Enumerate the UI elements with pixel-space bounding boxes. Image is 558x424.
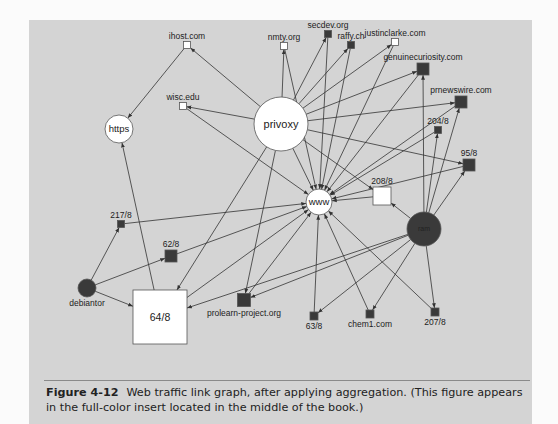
node-square	[325, 31, 332, 38]
node-square	[310, 312, 318, 320]
node-label: justinclarke.com	[364, 28, 426, 38]
node-square	[435, 127, 442, 134]
node-label: 63/8	[306, 321, 323, 331]
node-label: https	[109, 123, 130, 134]
node-n64: 64/8	[133, 290, 187, 344]
node-justinclarke: justinclarke.com	[364, 28, 426, 46]
node-label: 217/8	[110, 210, 132, 220]
edge-n217-to-www	[125, 203, 307, 223]
node-label: debiantor	[69, 298, 105, 308]
edge-n64-to-www	[187, 210, 308, 298]
edge-ram-to-n207	[426, 246, 434, 308]
edge-ram-to-prolearn	[251, 235, 409, 297]
edge-privoxy-to-prolearn	[245, 150, 275, 293]
node-label: raffy.ch	[337, 31, 364, 41]
caption-separator	[44, 380, 530, 381]
node-https: https	[105, 115, 133, 143]
edge-privoxy-to-genuinecuriosity	[306, 71, 417, 114]
node-genuinecuriosity: genuinecuriosity.com	[383, 52, 462, 75]
node-label: prnewswire.com	[430, 85, 491, 95]
node-label: prolearn-project.org	[207, 308, 281, 318]
node-square	[392, 39, 399, 46]
edge-privoxy-to-www	[293, 148, 313, 190]
node-n207: 207/8	[424, 308, 446, 327]
edge-ram-to-genuinecuriosity	[423, 75, 424, 212]
edge-debiantor-to-n217	[91, 228, 119, 281]
node-raffy: raffy.ch	[337, 31, 364, 49]
node-n63: 63/8	[306, 312, 323, 331]
node-label: genuinecuriosity.com	[383, 52, 462, 62]
node-square	[455, 96, 467, 108]
node-nmty: nmty.org	[268, 32, 301, 50]
edge-debiantor-to-n62	[95, 258, 165, 285]
edge-n63-to-www	[314, 215, 318, 312]
edge-ram-to-n95	[434, 171, 465, 215]
node-label: 95/8	[461, 148, 478, 158]
node-label: 208/8	[371, 176, 393, 186]
node-circle	[78, 279, 96, 297]
edge-ram-to-n64	[187, 234, 408, 308]
node-label: secdev.org	[308, 20, 349, 30]
node-n204: 204/8	[427, 116, 449, 134]
node-square	[281, 43, 288, 50]
node-n62: 62/8	[163, 239, 180, 262]
node-n217: 217/8	[110, 210, 132, 228]
node-label: privoxy	[264, 118, 299, 130]
node-label: 204/8	[427, 116, 449, 126]
node-label: www	[308, 196, 330, 207]
node-square	[431, 308, 439, 316]
node-label: 64/8	[150, 311, 171, 323]
figure-number: Figure 4-12	[46, 386, 118, 399]
edge-justinclarke-to-www	[325, 46, 394, 191]
link-graph: privoxyhttpswwwramdebiantorihost.comwisc…	[0, 0, 558, 424]
node-label: 62/8	[163, 239, 180, 249]
edge-privoxy-to-ihost	[191, 48, 261, 107]
edge-privoxy-to-wisc	[187, 107, 255, 119]
node-ram: ram	[407, 212, 441, 246]
node-square	[118, 221, 125, 228]
edge-n62-to-www	[177, 206, 307, 253]
edge-privoxy-to-n64	[177, 147, 267, 290]
edge-privoxy-to-secdev	[293, 38, 326, 101]
node-label: ihost.com	[169, 31, 205, 41]
edge-ihost-to-https	[128, 49, 184, 119]
node-label: ram	[418, 225, 430, 232]
edge-privoxy-to-nmty	[282, 50, 284, 98]
node-n208: 208/8	[371, 176, 393, 205]
node-square	[184, 42, 191, 49]
node-chem1: chem1.com	[348, 310, 392, 329]
edge-privoxy-to-n95	[307, 130, 463, 164]
node-wisc: wisc.edu	[165, 92, 199, 110]
node-square	[417, 63, 429, 75]
edge-genuinecuriosity-to-www	[327, 75, 418, 192]
node-privoxy: privoxy	[254, 97, 308, 151]
node-ihost: ihost.com	[169, 31, 205, 49]
node-www: www	[306, 189, 332, 215]
node-square	[463, 159, 475, 171]
node-n95: 95/8	[461, 148, 478, 171]
node-label: 207/8	[424, 317, 446, 327]
node-square	[348, 42, 355, 49]
node-prolearn: prolearn-project.org	[207, 294, 281, 318]
node-square	[366, 310, 374, 318]
node-square	[180, 103, 187, 110]
graph-nodes: privoxyhttpswwwramdebiantorihost.comwisc…	[69, 20, 491, 345]
node-square	[238, 294, 251, 307]
graph-edges	[91, 38, 465, 313]
node-label: nmty.org	[268, 32, 301, 42]
edge-privoxy-to-n208	[303, 140, 373, 190]
node-square	[165, 250, 177, 262]
node-label: chem1.com	[348, 319, 392, 329]
figure-caption: Figure 4-12Web traffic link graph, after…	[46, 385, 526, 415]
edge-ram-to-n208	[391, 203, 411, 218]
node-square	[373, 187, 391, 205]
node-label: wisc.edu	[165, 92, 199, 102]
